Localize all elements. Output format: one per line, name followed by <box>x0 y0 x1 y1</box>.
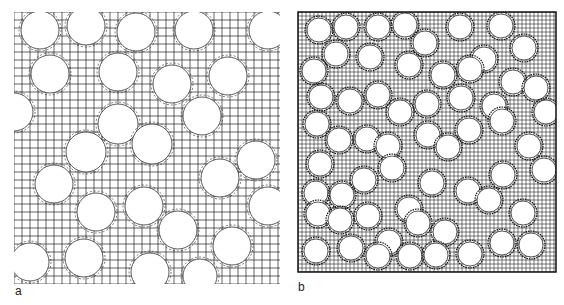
fiber-circle <box>66 132 106 172</box>
fiber-circle <box>519 233 543 257</box>
fiber-circle <box>501 70 525 94</box>
fiber-circle <box>308 152 332 176</box>
panel-label-a: a <box>15 284 22 298</box>
fiber-circle <box>153 65 191 103</box>
fiber-circle <box>511 201 535 225</box>
fiber-circle <box>358 45 382 69</box>
mesh-figure-b <box>282 0 564 290</box>
fiber-circle <box>209 57 247 95</box>
fiber-circle <box>490 231 514 255</box>
fiber-circle <box>534 100 558 124</box>
fiber-circle <box>328 208 352 232</box>
fiber-circle <box>393 13 417 37</box>
fiber-circle <box>183 259 217 290</box>
fiber-circle <box>415 92 439 116</box>
fiber-circle <box>338 89 362 113</box>
fiber-circle <box>213 227 251 265</box>
fiber-circle <box>524 76 548 100</box>
fiber-circle <box>352 168 376 192</box>
fiber-circle <box>309 85 333 109</box>
fiber-circle <box>458 57 482 81</box>
fiber-circle <box>433 220 457 244</box>
fiber-circle <box>304 181 328 205</box>
fiber-circle <box>327 128 351 152</box>
fiber-circle <box>406 211 430 235</box>
fiber-circle <box>490 109 514 133</box>
fiber-circle <box>532 158 556 182</box>
fiber-circle <box>65 239 103 277</box>
fiber-circle <box>0 93 33 131</box>
fiber-circle <box>424 243 448 267</box>
fiber-circle <box>334 15 358 39</box>
fiber-circle <box>477 188 501 212</box>
fiber-circle <box>388 100 412 124</box>
panel-label-b: b <box>298 280 305 294</box>
fiber-circle <box>307 18 331 42</box>
fiber-circle <box>159 211 197 249</box>
fiber-circle <box>77 193 115 231</box>
mesh-figure-a <box>0 0 282 290</box>
fiber-circle <box>131 253 169 290</box>
fiber-circle <box>201 159 239 197</box>
fiber-circle <box>99 53 137 91</box>
fiber-circle <box>237 141 275 179</box>
fiber-circle <box>517 134 541 158</box>
fiber-circle <box>366 83 390 107</box>
fiber-circle <box>512 36 536 60</box>
fiber-circle <box>489 14 513 38</box>
fiber-circle <box>448 15 472 39</box>
fiber-circle <box>11 243 49 281</box>
fiber-circle <box>376 134 400 158</box>
fiber-circle <box>339 236 363 260</box>
fiber-circle <box>249 187 282 225</box>
fiber-circle <box>175 11 213 49</box>
fiber-circle <box>304 239 328 263</box>
fiber-circle <box>31 55 69 93</box>
panel-b <box>282 0 564 290</box>
fiber-circle <box>356 204 380 228</box>
fiber-circle <box>35 165 73 203</box>
fiber-circle <box>366 244 390 268</box>
fiber-circle <box>117 13 155 51</box>
fiber-circle <box>98 104 138 144</box>
fiber-circle <box>330 183 354 207</box>
fiber-circle <box>458 242 482 266</box>
fiber-circle <box>302 59 326 83</box>
fiber-circle <box>431 63 455 87</box>
fiber-circle <box>436 135 460 159</box>
fiber-circle <box>380 156 404 180</box>
panel-a <box>0 0 282 290</box>
fiber-circle <box>366 15 390 39</box>
fiber-circle <box>420 171 444 195</box>
fiber-circle <box>491 163 515 187</box>
fiber-circle <box>456 179 480 203</box>
fiber-circle <box>449 86 473 110</box>
fiber-circle <box>413 31 437 55</box>
fiber-circle <box>397 53 421 77</box>
fiber-circle <box>67 7 105 45</box>
fiber-circle <box>132 124 172 164</box>
fiber-circle <box>183 97 221 135</box>
fiber-circle <box>398 244 422 268</box>
fiber-circle <box>457 118 481 142</box>
fiber-circle <box>324 42 348 66</box>
fiber-circle <box>305 112 329 136</box>
fiber-circle <box>125 187 163 225</box>
fiber-circle <box>249 11 282 49</box>
fiber-circle <box>21 11 59 49</box>
